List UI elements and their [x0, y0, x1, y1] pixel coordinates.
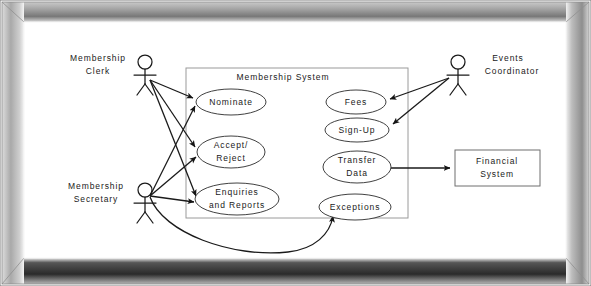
assoc-coordinator-signup[interactable] [393, 78, 449, 124]
actor-label: Membership [68, 181, 124, 191]
assoc-secretary-enquiries[interactable] [150, 196, 194, 202]
use-case-enquiries-and-reports[interactable]: Enquiries and Reports [195, 183, 279, 215]
assoc-secretary-nominate[interactable] [150, 106, 195, 196]
use-case-label: Accept/ [214, 140, 249, 150]
use-case-exceptions[interactable]: Exceptions [319, 194, 391, 220]
use-case-accept-reject[interactable]: Accept/ Reject [197, 136, 265, 168]
actor-label-line2: Coordinator [485, 66, 539, 76]
use-case-transfer-data[interactable]: Transfer Data [323, 151, 391, 183]
external-system-label: Financial [476, 156, 518, 166]
actor-membership-clerk[interactable]: Membership Clerk [70, 53, 156, 95]
actor-membership-secretary[interactable]: Membership Secretary [68, 181, 156, 223]
use-case-label: Transfer [338, 155, 377, 165]
external-system-label-line2: System [480, 169, 514, 179]
use-case-label: Nominate [209, 97, 253, 107]
association-lines [150, 78, 450, 253]
external-system-financial-system[interactable]: Financial System [455, 150, 540, 186]
assoc-secretary-accept-reject[interactable] [150, 157, 196, 196]
use-case-label: Fees [345, 97, 368, 107]
assoc-coordinator-fees[interactable] [390, 78, 449, 99]
use-case-label-line2: Reject [216, 153, 246, 163]
actor-events-coordinator[interactable]: Events Coordinator [447, 53, 539, 95]
actor-label: Events [492, 53, 523, 63]
use-case-label-line2: and Reports [209, 200, 265, 210]
uml-canvas: Membership System [0, 0, 591, 286]
use-case-sign-up[interactable]: Sign-Up [325, 118, 389, 142]
actor-label-line2: Secretary [74, 194, 118, 204]
use-case-fees[interactable]: Fees [326, 90, 386, 114]
use-case-label: Sign-Up [338, 125, 375, 135]
actor-label: Membership [70, 53, 126, 63]
diagram-stage: Membership System [0, 0, 591, 286]
use-case-label: Enquiries [215, 187, 259, 197]
system-boundary-label: Membership System [237, 72, 330, 82]
use-case-label: Exceptions [330, 202, 381, 212]
actor-label-line2: Clerk [86, 66, 110, 76]
use-case-label-line2: Data [346, 168, 368, 178]
use-case-nominate[interactable]: Nominate [196, 89, 266, 115]
